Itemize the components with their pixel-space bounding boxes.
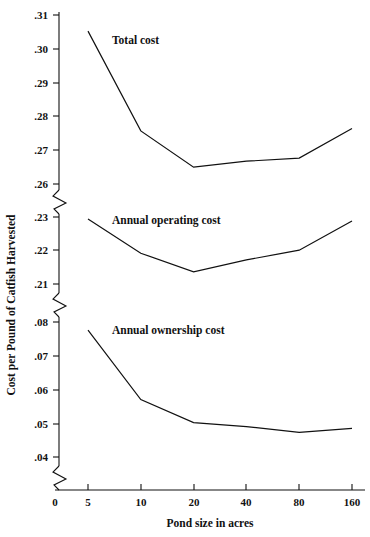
x-axis-title: Pond size in acres [167, 517, 255, 529]
y-tick-label: .08 [34, 316, 48, 328]
x-tick-label: 10 [136, 496, 148, 508]
x-tick-marks [88, 484, 352, 490]
y-axis-title: Cost per Pound of Catfish Harvested [5, 214, 18, 396]
y-tick-label: .30 [34, 43, 48, 55]
x-tick-label: 20 [189, 496, 201, 508]
y-tick-marks [53, 15, 59, 457]
y-tick-label: .23 [34, 211, 48, 223]
y-axis-break-bottom [53, 466, 66, 490]
x-tick-label: 0 [52, 496, 58, 508]
x-tick-label: 80 [294, 496, 306, 508]
series-line-annual-operating-cost [88, 219, 352, 272]
y-tick-label: .22 [34, 244, 48, 256]
y-tick-label: .07 [34, 350, 48, 362]
cost-per-pound-line-chart: Cost per Pound of Catfish Harvested [0, 0, 370, 537]
y-tick-label: .29 [34, 77, 48, 89]
series-label-annual-operating-cost: Annual operating cost [112, 214, 221, 227]
y-axis-break-middle [53, 293, 66, 317]
y-axis-break-upper [53, 190, 66, 214]
y-tick-label: .31 [34, 9, 48, 21]
y-tick-label: .21 [34, 278, 48, 290]
y-tick-label: .26 [34, 178, 48, 190]
x-tick-label: 40 [241, 496, 253, 508]
y-tick-label: .04 [34, 451, 48, 463]
y-tick-label: .27 [34, 144, 48, 156]
y-tick-label: .05 [34, 418, 48, 430]
y-tick-label: .28 [34, 110, 48, 122]
x-tick-label: 5 [85, 496, 91, 508]
series-label-annual-ownership-cost: Annual ownership cost [112, 324, 225, 337]
chart-container: Cost per Pound of Catfish Harvested [0, 0, 370, 537]
y-tick-label: .06 [34, 384, 48, 396]
series-line-annual-ownership-cost [88, 330, 352, 432]
series-label-total-cost: Total cost [112, 34, 159, 46]
x-tick-label: 160 [344, 496, 361, 508]
series-line-total-cost [88, 31, 352, 167]
